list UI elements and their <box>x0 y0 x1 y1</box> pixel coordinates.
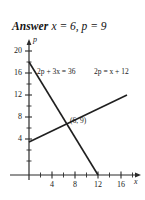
x-tick-label-4: 4 <box>45 181 59 189</box>
x-axis-name-label: x <box>134 178 138 186</box>
y-tick-label-12: 12 <box>6 91 22 99</box>
x-tick-label-16: 16 <box>114 181 128 189</box>
y-axis-name-label: p <box>33 36 37 44</box>
y-tick-label-4: 4 <box>6 135 22 143</box>
y-axis-arrowhead <box>27 39 32 45</box>
equation-label-2: 2p = x + 12 <box>94 68 129 76</box>
intersection-point-label: (6, 9) <box>70 117 86 125</box>
y-tick-label-16: 16 <box>6 69 22 77</box>
x-tick-label-8: 8 <box>68 181 82 189</box>
equation-label-1: 2p + 3x = 36 <box>37 68 75 76</box>
y-tick-label-8: 8 <box>6 113 22 121</box>
x-tick-label-12: 12 <box>91 181 105 189</box>
figure-screenshot: Answerx = 6, p = 9 <box>0 0 145 200</box>
coordinate-plot: p x 20 16 12 8 4 4 8 12 16 2p + 3x = 36 … <box>0 30 145 200</box>
line-2p-plus-3x-eq-36 <box>29 62 98 175</box>
y-tick-label-20: 20 <box>6 47 22 55</box>
